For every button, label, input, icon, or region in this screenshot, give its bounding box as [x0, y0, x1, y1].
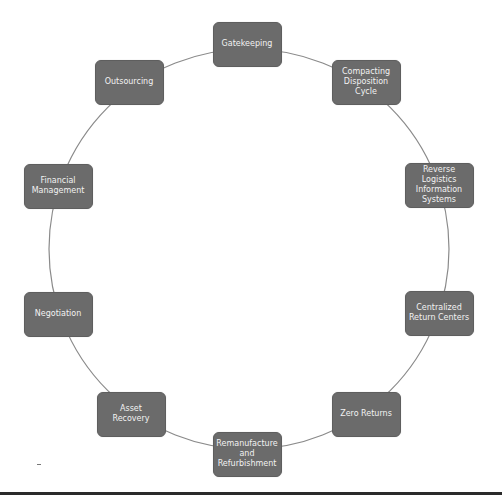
- node-outsourcing: Outsourcing: [95, 60, 164, 105]
- node-gatekeeping: Gatekeeping: [213, 22, 282, 67]
- bottom-rule-divider: [0, 492, 502, 495]
- cycle-connector-ring: [0, 0, 502, 502]
- node-compacting-disposition-cycle: Compacting Disposition Cycle: [332, 60, 401, 105]
- node-centralized-return-centers: Centralized Return Centers: [405, 291, 474, 336]
- stray-dash-mark: [37, 464, 41, 465]
- node-remanufacture-and-refurbishment: Remanufacture and Refurbishment: [213, 432, 282, 477]
- reverse-logistics-cycle-diagram: Gatekeeping Compacting Disposition Cycle…: [0, 0, 502, 502]
- node-negotiation: Negotiation: [24, 292, 93, 337]
- node-asset-recovery: Asset Recovery: [97, 392, 166, 437]
- node-reverse-logistics-information-systems: Reverse Logistics Information Systems: [405, 163, 474, 208]
- node-zero-returns: Zero Returns: [332, 392, 401, 437]
- node-financial-management: Financial Management: [24, 164, 93, 209]
